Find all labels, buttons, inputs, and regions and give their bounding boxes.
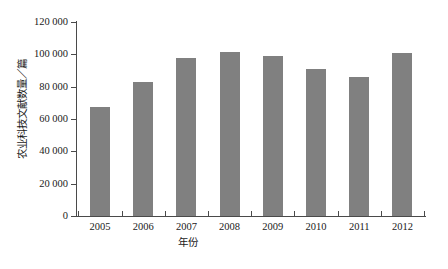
x-axis-tick-label: 2007 (162, 221, 210, 234)
x-axis-tick (165, 211, 166, 217)
y-axis-tick (71, 216, 77, 217)
x-axis-tick-label: 2012 (378, 221, 426, 234)
x-axis-tick (424, 211, 425, 217)
bar (349, 77, 369, 216)
bar (220, 52, 240, 216)
y-axis-title-text: 农业科技文献数量／篇 (14, 58, 29, 158)
x-axis-tick-label: 2005 (76, 221, 124, 234)
x-axis-tick (294, 211, 295, 217)
x-axis-tick-label: 2008 (206, 221, 254, 234)
bar (133, 82, 153, 216)
x-axis-tick (208, 211, 209, 217)
y-axis-title: 农业科技文献数量／篇 (10, 0, 32, 216)
x-axis-tick-label: 2009 (249, 221, 297, 234)
x-axis-tick-label: 2006 (119, 221, 167, 234)
x-axis-tick (251, 211, 252, 217)
plot-area (76, 22, 425, 216)
x-axis-tick-label: 2011 (335, 221, 383, 234)
x-axis-tick-label: 2010 (292, 221, 340, 234)
bar (176, 58, 196, 216)
x-axis-tick (122, 211, 123, 217)
x-axis-tick (78, 211, 79, 217)
x-axis-title: 年份 (0, 234, 448, 249)
bar-chart: 020 00040 00060 00080 000100 000120 000 … (0, 0, 448, 269)
x-axis-tick (338, 211, 339, 217)
bar (90, 107, 110, 216)
bar (263, 56, 283, 216)
bar (306, 69, 326, 216)
x-axis-title-text: 年份 (178, 237, 198, 248)
bar (392, 53, 412, 216)
x-axis-tick (381, 211, 382, 217)
